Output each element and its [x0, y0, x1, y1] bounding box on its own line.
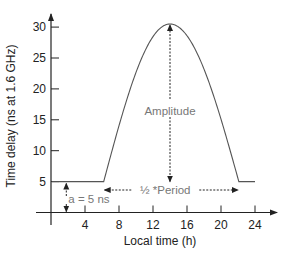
- x-tick-label: 24: [248, 218, 262, 232]
- y-axis-title: Time delay (ns at 1.6 GHz): [4, 45, 18, 188]
- y-tick-label: 15: [33, 113, 47, 127]
- delay-curve: [52, 24, 255, 182]
- y-tick-label: 25: [33, 51, 47, 65]
- x-axis-title: Local time (h): [124, 234, 197, 248]
- y-tick-label: 5: [39, 175, 46, 189]
- x-tick-label: 4: [82, 218, 89, 232]
- x-tick-label: 16: [180, 218, 194, 232]
- y-tick-label: 30: [33, 20, 47, 34]
- delay-chart: 51015202530 4812162024 Amplitude ½ *Peri…: [0, 0, 290, 260]
- y-ticks: 51015202530: [33, 20, 59, 189]
- x-tick-label: 8: [116, 218, 123, 232]
- half-period-label: ½ *Period: [140, 184, 191, 196]
- y-tick-label: 10: [33, 144, 47, 158]
- x-ticks: 4812162024: [82, 206, 262, 232]
- x-tick-label: 12: [146, 218, 160, 232]
- amplitude-label: Amplitude: [144, 105, 195, 117]
- x-tick-label: 20: [214, 218, 228, 232]
- annotations: Amplitude ½ *Period a = 5 ns: [66, 25, 238, 211]
- y-tick-label: 20: [33, 82, 47, 96]
- offset-label: a = 5 ns: [68, 193, 109, 205]
